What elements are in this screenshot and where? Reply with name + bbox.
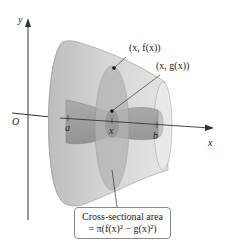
tick-x-label: x xyxy=(109,126,113,136)
tick-a-label: a xyxy=(65,123,70,133)
outer-point-label: (x, f(x)) xyxy=(129,43,161,53)
y-axis-arrow-icon xyxy=(25,18,31,27)
x-axis-label: x xyxy=(208,138,212,148)
callout-line-1: Cross-sectional area xyxy=(75,211,170,223)
inner-point-label: (x, g(x)) xyxy=(156,61,189,71)
y-axis-label: y xyxy=(18,15,22,25)
x-axis-arrow-icon xyxy=(205,125,214,132)
callout-line-2: = π(f(x)² − g(x)²) xyxy=(75,223,170,235)
tick-b-label: b xyxy=(153,131,158,141)
cross-sectional-area-callout: Cross-sectional area = π(f(x)² − g(x)²) xyxy=(74,207,171,239)
origin-label: O xyxy=(12,117,19,127)
washer-solid-figure xyxy=(0,0,231,242)
